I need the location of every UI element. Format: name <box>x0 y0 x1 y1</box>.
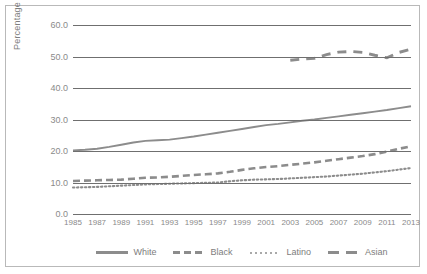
y-axis-tick-label: 30.0 <box>50 115 68 125</box>
gridline <box>73 57 411 58</box>
x-axis-tick-label: 1989 <box>112 218 130 227</box>
x-axis-tick-label: 1987 <box>88 218 106 227</box>
x-axis-tick-label: 2005 <box>306 218 324 227</box>
series-line-asian <box>290 49 411 60</box>
y-axis-title: Percentage <box>12 0 28 76</box>
legend-swatch-latino <box>249 248 281 257</box>
legend-swatch-asian <box>328 248 360 257</box>
gridline <box>73 120 411 121</box>
x-axis-tick-label: 1991 <box>137 218 155 227</box>
y-axis-tick-label: 10.0 <box>50 178 68 188</box>
y-axis-tick-label: 60.0 <box>50 20 68 30</box>
legend-label: Asian <box>365 247 388 257</box>
y-axis-tick-label: 20.0 <box>50 146 68 156</box>
legend-label: White <box>133 247 156 257</box>
x-axis-tick-label: 1993 <box>161 218 179 227</box>
gridline <box>73 25 411 26</box>
gridline <box>73 88 411 89</box>
x-axis-tick-label: 1999 <box>233 218 251 227</box>
chart-container: Percentage 0.010.020.030.040.050.060.0 1… <box>5 5 420 267</box>
x-axis-tick-label: 2003 <box>281 218 299 227</box>
legend-label: Black <box>210 247 232 257</box>
legend-swatch-black <box>173 248 205 257</box>
plot-area <box>73 25 411 214</box>
y-axis-tick-labels: 0.010.020.030.040.050.060.0 <box>34 18 68 218</box>
y-axis-tick-label: 50.0 <box>50 52 68 62</box>
gridline <box>73 183 411 184</box>
x-axis-tick-label: 2011 <box>378 218 395 227</box>
x-axis-tick-label: 2013 <box>402 218 420 227</box>
gridline <box>73 151 411 152</box>
y-axis-tick-label: 40.0 <box>50 83 68 93</box>
x-axis-tick-label: 1995 <box>185 218 203 227</box>
x-axis-tick-labels: 1985198719891991199319951997199920012003… <box>73 218 411 234</box>
legend-item-latino[interactable]: Latino <box>249 247 311 257</box>
legend-item-white[interactable]: White <box>96 247 156 257</box>
legend-label: Latino <box>286 247 311 257</box>
x-axis-tick-label: 2001 <box>257 218 275 227</box>
gridline <box>73 214 411 215</box>
x-axis-tick-label: 1997 <box>209 218 227 227</box>
legend-item-asian[interactable]: Asian <box>328 247 388 257</box>
series-line-white <box>73 106 411 150</box>
legend-swatch-white <box>96 248 128 257</box>
x-axis-tick-label: 2009 <box>354 218 372 227</box>
chart-legend: WhiteBlackLatinoAsian <box>73 244 411 260</box>
legend-item-black[interactable]: Black <box>173 247 232 257</box>
x-axis-tick-label: 1985 <box>64 218 82 227</box>
x-axis-tick-label: 2007 <box>330 218 348 227</box>
